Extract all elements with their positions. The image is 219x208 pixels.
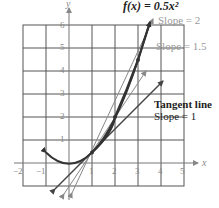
y-tick-4: 4 <box>60 65 65 75</box>
y-axis-label: y <box>66 0 70 9</box>
x-tick-1: 1 <box>89 166 94 176</box>
point-3 <box>136 58 140 62</box>
tangent-line-label: Tangent line <box>154 98 212 110</box>
y-tick-5: 5 <box>60 42 65 52</box>
secant-slope-1-5 <box>64 71 146 194</box>
slope-2-label: Slope = 2 <box>158 14 200 26</box>
x-tick-5: 5 <box>180 166 185 176</box>
x-tick-neg2: −2 <box>13 166 23 176</box>
point-2 <box>113 115 117 119</box>
tangent-line <box>55 81 163 189</box>
x-axis-label: x <box>202 157 206 168</box>
x-tick-2: 2 <box>112 166 117 176</box>
x-tick-4: 4 <box>158 166 163 176</box>
y-tick-2: 2 <box>60 111 65 121</box>
slope-1-5-label: Slope = 1.5 <box>156 40 207 52</box>
function-title: f(x) = 0.5x² <box>123 0 178 14</box>
y-tick-6: 6 <box>60 20 65 30</box>
x-tick-neg1: −1 <box>36 166 46 176</box>
y-tick-1: 1 <box>60 134 65 144</box>
x-tick-3: 3 <box>135 166 140 176</box>
point-1 <box>90 151 94 155</box>
y-tick-3: 3 <box>60 88 65 98</box>
slope-1-label: Slope = 1 <box>154 110 196 122</box>
